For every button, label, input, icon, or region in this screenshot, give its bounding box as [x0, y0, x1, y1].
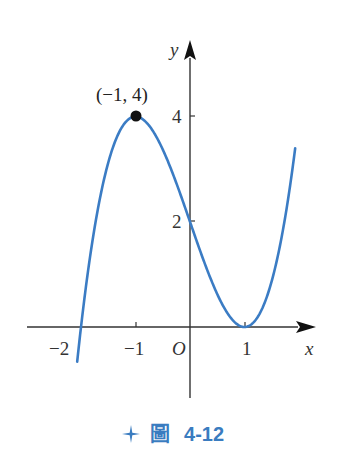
function-plot: (−1, 4) −2 −1 1 4 2 x y O	[0, 0, 349, 475]
x-tick-label: −1	[124, 338, 144, 359]
caption-number: 4-12	[184, 423, 224, 445]
local-max-label: (−1, 4)	[96, 84, 148, 106]
y-tick-label: 2	[172, 211, 182, 232]
x-tick-label: 1	[242, 338, 252, 359]
y-tick-label: 4	[172, 106, 182, 127]
origin-label: O	[172, 338, 186, 359]
x-tick-label: −2	[49, 338, 69, 359]
figure-caption: 圖 4-12	[0, 418, 349, 447]
cubic-curve	[77, 117, 295, 362]
local-max-marker	[131, 111, 142, 122]
caption-label: 圖	[150, 423, 170, 445]
y-axis-arrow-icon	[184, 40, 196, 60]
x-axis-arrow-icon	[296, 321, 316, 333]
y-axis-label: y	[168, 39, 179, 60]
four-point-star-icon	[121, 424, 141, 444]
x-axis-label: x	[304, 338, 314, 359]
